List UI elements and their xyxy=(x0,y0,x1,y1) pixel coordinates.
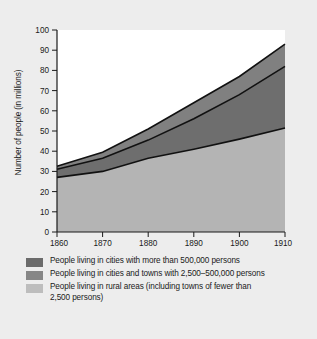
y-tick-label: 100 xyxy=(35,26,49,35)
x-tick-label: 1870 xyxy=(93,239,112,248)
x-axis-ticks xyxy=(57,232,285,237)
x-tick-label: 1880 xyxy=(139,239,158,248)
x-axis-tick-labels: 1860 1870 1880 1890 1900 1910 xyxy=(50,239,293,248)
y-tick-label: 90 xyxy=(40,46,50,55)
legend-label-rural: People living in rural areas (including … xyxy=(50,282,251,303)
chart-plot-region: Number of people (in millions) xyxy=(0,0,317,250)
legend-item-rural: People living in rural areas (including … xyxy=(26,282,306,303)
y-axis-tick-labels: 100 90 80 70 60 50 40 30 20 10 0 xyxy=(35,26,49,237)
legend-label-rural-line2: 2,500 persons) xyxy=(50,293,103,302)
legend-item-small-cities: People living in cities and towns with 2… xyxy=(26,269,306,280)
chart-legend: People living in cities with more than 5… xyxy=(26,256,306,306)
x-tick-label: 1860 xyxy=(50,239,69,248)
y-tick-label: 10 xyxy=(40,208,50,217)
legend-swatch-rural xyxy=(26,284,43,293)
y-tick-label: 0 xyxy=(44,228,49,237)
stacked-area-chart: 100 90 80 70 60 50 40 30 20 10 0 xyxy=(0,0,317,250)
chart-figure: Number of people (in millions) xyxy=(0,0,317,339)
y-tick-label: 30 xyxy=(40,167,50,176)
x-tick-label: 1910 xyxy=(274,239,293,248)
x-tick-label: 1890 xyxy=(185,239,204,248)
y-tick-label: 50 xyxy=(40,127,50,136)
legend-item-large-cities: People living in cities with more than 5… xyxy=(26,256,306,267)
legend-label-small-cities: People living in cities and towns with 2… xyxy=(50,269,265,280)
y-tick-label: 70 xyxy=(40,87,50,96)
legend-swatch-small-cities xyxy=(26,271,43,280)
legend-label-rural-line1: People living in rural areas (including … xyxy=(50,282,251,291)
y-tick-label: 60 xyxy=(40,107,50,116)
legend-swatch-large-cities xyxy=(26,258,43,267)
y-tick-label: 40 xyxy=(40,147,50,156)
y-tick-label: 20 xyxy=(40,188,50,197)
x-tick-label: 1900 xyxy=(230,239,249,248)
y-tick-label: 80 xyxy=(40,66,50,75)
y-axis-ticks xyxy=(52,30,57,232)
legend-label-large-cities: People living in cities with more than 5… xyxy=(50,256,240,267)
